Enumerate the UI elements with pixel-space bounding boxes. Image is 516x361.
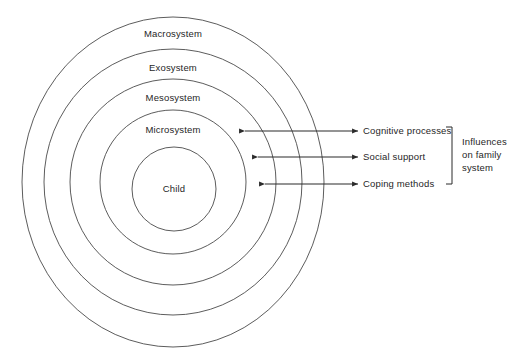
ring-exosystem: [44, 49, 302, 315]
ring-label-exosystem: Exosystem: [149, 62, 197, 73]
bracket-label-line-2: on family: [462, 149, 501, 160]
bracket-label-line-1: Influences: [462, 136, 507, 147]
ring-label-microsystem: Microsystem: [146, 124, 201, 135]
diagram-canvas: Macrosystem Exosystem Mesosystem Microsy…: [0, 0, 516, 361]
ring-label-group: Macrosystem Exosystem Mesosystem Microsy…: [144, 28, 202, 194]
influences-bracket-group: Influences on family system: [446, 127, 507, 184]
child-label: Child: [163, 183, 185, 194]
influence-label-group: Cognitive processes Social support Copin…: [363, 125, 451, 189]
influence-label-cognitive-processes: Cognitive processes: [363, 125, 451, 136]
influence-label-social-support: Social support: [363, 151, 426, 162]
bracket-label-line-3: system: [462, 162, 493, 173]
influence-label-coping-methods: Coping methods: [363, 178, 434, 189]
ring-label-macrosystem: Macrosystem: [144, 28, 202, 39]
ring-label-mesosystem: Mesosystem: [146, 92, 201, 103]
ecological-systems-diagram: Macrosystem Exosystem Mesosystem Microsy…: [0, 0, 516, 361]
